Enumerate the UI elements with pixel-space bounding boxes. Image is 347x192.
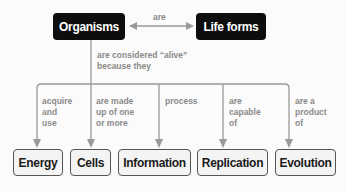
node-cells-label: Cells <box>77 156 104 170</box>
node-evolution-label: Evolution <box>280 156 332 170</box>
node-energy-label: Energy <box>19 156 58 170</box>
node-replication: Replication <box>197 149 268 176</box>
link-label-evolution: are a product of <box>295 96 327 129</box>
node-organisms-label: Organisms <box>59 20 119 34</box>
link-label-energy: acquire and use <box>42 96 72 129</box>
link-label-are: are <box>153 12 166 23</box>
node-information-label: Information <box>123 156 186 170</box>
node-evolution: Evolution <box>275 149 336 176</box>
node-cells: Cells <box>70 149 111 176</box>
node-organisms: Organisms <box>53 13 125 40</box>
link-label-replication: are capable of <box>229 96 261 129</box>
node-life-forms: Life forms <box>196 13 266 40</box>
link-label-information: process <box>165 96 198 107</box>
node-energy: Energy <box>13 149 63 176</box>
node-information: Information <box>118 149 191 176</box>
link-label-cells: are made up of one or more <box>96 96 134 129</box>
link-label-considered-alive: are considered “alive” because they <box>97 50 187 72</box>
node-replication-label: Replication <box>202 156 263 170</box>
node-life-forms-label: Life forms <box>203 20 258 34</box>
